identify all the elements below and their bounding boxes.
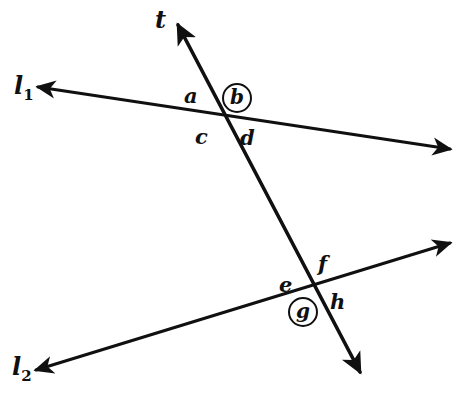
angle-label-h: h [330, 291, 345, 312]
line-label-t: t [155, 8, 166, 32]
line-label-l1-subscript: 1 [23, 86, 33, 104]
line-l2 [36, 243, 450, 370]
angle-label-b: b [230, 87, 244, 107]
line-label-l2-subscript: 2 [21, 367, 31, 385]
angle-label-a: a [184, 85, 198, 106]
line-transversal-t [178, 25, 360, 372]
line-label-l1-text: l [14, 71, 23, 100]
angle-label-g-circle: g [288, 297, 318, 327]
line-label-l2: l2 [12, 355, 32, 384]
angle-label-f: f [318, 253, 327, 274]
angle-label-e: e [279, 274, 292, 295]
angle-label-d: d [240, 127, 255, 148]
angle-label-g: g [296, 301, 310, 321]
line-label-l1: l1 [14, 74, 34, 103]
geometry-canvas [0, 0, 458, 394]
line-label-l2-text: l [12, 352, 21, 381]
line-label-t-text: t [155, 5, 166, 34]
angle-label-b-circle: b [222, 83, 252, 113]
geometry-diagram: l1 l2 t a b c d e f g h [0, 0, 458, 394]
angle-label-c: c [195, 126, 208, 147]
